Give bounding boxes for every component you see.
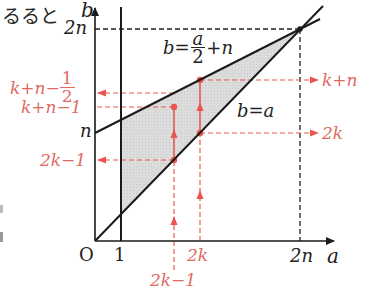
left-edge-fragment-2 <box>0 232 3 242</box>
one-label: 1 <box>114 244 125 265</box>
label-k-n-half-main: k+n− <box>10 78 60 98</box>
label-k-plus-n: k+n <box>322 70 358 90</box>
point-2k-1-upper <box>171 104 177 110</box>
origin-label: O <box>79 244 94 265</box>
label-2k-minus-1-left: 2k−1 <box>40 150 86 170</box>
two-n-a-label: 2n <box>290 245 313 266</box>
lower-line-label: b=a <box>237 100 274 121</box>
red-arrow-up-2k-lower <box>197 190 204 199</box>
upper-line-rhs: +n <box>206 37 233 58</box>
label-2k-right: 2k <box>322 123 343 143</box>
n-label: n <box>80 120 92 141</box>
label-2k-bottom: 2k <box>187 245 208 265</box>
two-n-b-label: 2n <box>64 17 87 38</box>
label-k-n-minus-1: k+n−1 <box>21 97 82 117</box>
left-edge-fragment-1 <box>0 205 3 213</box>
red-arrow-up-2k-1-lower <box>171 216 178 225</box>
label-2k-minus-1-bottom: 2k−1 <box>150 270 196 290</box>
upper-line-fraction: a 2 <box>191 30 206 65</box>
a-axis-label: a <box>327 244 339 268</box>
upper-line-lhs: b= <box>163 37 190 58</box>
point-2n-2n <box>297 26 303 32</box>
upper-line-label: b= a 2 +n <box>163 30 233 65</box>
upper-line-denominator: 2 <box>192 48 203 65</box>
